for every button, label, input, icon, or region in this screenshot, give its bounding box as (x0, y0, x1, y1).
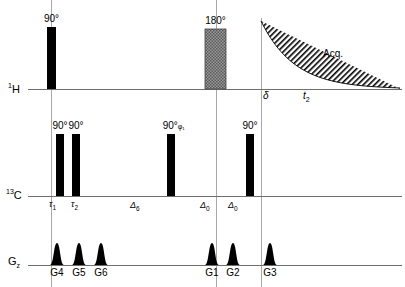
c13-90-pulse-4-label: 90° (242, 121, 257, 131)
gradient-g3-label: G3 (263, 268, 276, 278)
gradient-g4-label: G4 (50, 268, 63, 278)
gradient-g6-label: G6 (94, 268, 107, 278)
acquisition-label: Acq. (323, 49, 343, 59)
gradient-g3 (263, 243, 277, 265)
c13-90-pulse-phi1 (167, 134, 175, 196)
c13-pulses-layer (56, 134, 254, 196)
pulse-sequence-figure: 1H 13C Gz Acq. δ t2 90°180° 90°90°90°φ₁9… (0, 0, 405, 287)
gradient-g6 (94, 243, 108, 265)
c13-90-pulse-1-label: 90° (52, 121, 67, 131)
delay-delta6: Δ6 (130, 201, 140, 212)
h1-pulses-layer (47, 27, 226, 89)
c13-90-pulse-phi1-label: 90°φ₁ (163, 121, 185, 131)
delay-tau2: τ2 (71, 200, 78, 211)
h1-90-pulse-label: 90° (44, 14, 59, 24)
t2-marker-label: t2 (303, 91, 310, 103)
channel-label-h1: 1H (8, 82, 20, 95)
channel-label-gz: Gz (8, 256, 20, 269)
c13-90-pulse-2-label: 90° (68, 121, 83, 131)
delay-delta0-a: Δ0 (200, 201, 210, 212)
gradient-g4 (50, 243, 64, 265)
gradients-layer (50, 243, 277, 265)
gradient-g2 (226, 243, 240, 265)
pulse-sequence-canvas (0, 0, 405, 287)
gradient-g2-label: G2 (226, 268, 239, 278)
delay-tau1: τ1 (49, 200, 56, 211)
h1-90-pulse (47, 27, 56, 89)
h1-180-pulse-label: 180° (205, 16, 226, 26)
channel-label-c13: 13C (6, 188, 22, 201)
delay-delta0-b: Δ0 (228, 201, 238, 212)
baselines-layer (28, 90, 402, 266)
h1-180-pulse (205, 29, 226, 89)
c13-90-pulse-1 (56, 134, 64, 196)
gradient-g1-label: G1 (205, 268, 218, 278)
delta-marker-label: δ (263, 91, 269, 101)
c13-90-pulse-2 (72, 134, 80, 196)
gradient-g5 (72, 243, 86, 265)
guide-lines-layer (52, 0, 262, 287)
gradient-g5-label: G5 (72, 268, 85, 278)
c13-90-pulse-4 (246, 134, 254, 196)
